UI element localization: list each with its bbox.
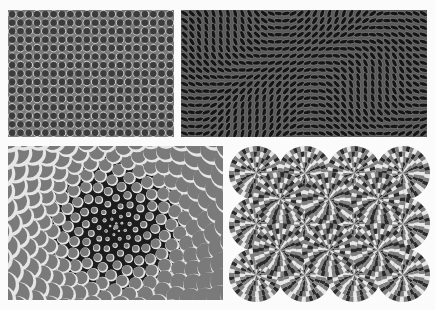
panel-dot-grid: Gray grid of dark circles with light edg… (8, 10, 174, 137)
panel-rotating-snakes: Rotating snakes rosettes (228, 145, 430, 303)
panel-wavy-blobs: Dark panel of tilted elliptical blobs fo… (181, 10, 427, 137)
panel-spiral-circles: Spiral of gray circles with white rims o… (8, 146, 223, 300)
